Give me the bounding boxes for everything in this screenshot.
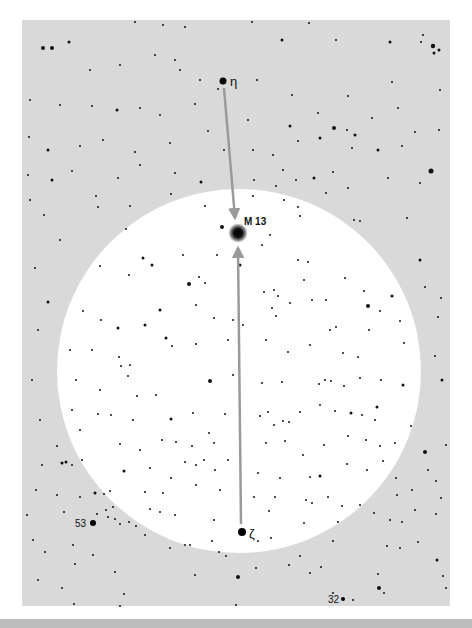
star — [200, 181, 203, 184]
star — [324, 379, 326, 381]
star — [325, 299, 327, 301]
star — [174, 514, 176, 516]
star — [419, 182, 421, 184]
star — [227, 459, 229, 461]
star — [265, 442, 267, 444]
star — [267, 411, 269, 413]
star — [303, 279, 305, 281]
star — [389, 41, 392, 44]
star — [297, 206, 299, 208]
star — [389, 519, 391, 521]
star — [31, 379, 33, 381]
star — [144, 491, 146, 493]
star — [194, 574, 196, 576]
star — [223, 149, 225, 151]
star — [91, 105, 93, 107]
star — [195, 343, 197, 345]
star — [69, 349, 71, 351]
star — [395, 477, 397, 479]
star — [377, 573, 379, 575]
star — [422, 34, 424, 36]
star — [440, 497, 442, 499]
star — [377, 586, 381, 590]
star — [73, 603, 75, 605]
star — [123, 593, 125, 595]
star — [309, 344, 311, 346]
star — [332, 126, 336, 130]
star — [135, 525, 137, 527]
star — [438, 129, 440, 131]
star — [342, 352, 344, 354]
star — [37, 329, 39, 331]
star — [291, 94, 293, 96]
star — [325, 192, 327, 194]
star-chart: η M 13 ζ 53 32 — [0, 0, 472, 628]
star — [169, 142, 171, 144]
star — [341, 505, 343, 507]
star — [169, 547, 171, 549]
star — [134, 151, 136, 153]
star — [256, 79, 258, 81]
star — [123, 470, 126, 473]
star — [26, 514, 28, 516]
star — [365, 439, 367, 441]
star — [129, 205, 131, 207]
star — [117, 327, 120, 330]
star — [114, 518, 116, 520]
star — [182, 254, 184, 256]
star — [273, 289, 275, 291]
star — [334, 410, 336, 412]
star — [59, 104, 61, 106]
star — [379, 310, 381, 312]
star — [56, 445, 58, 447]
star — [29, 99, 31, 101]
star — [72, 544, 74, 546]
star — [102, 139, 104, 141]
star — [431, 44, 435, 48]
star — [423, 450, 427, 454]
star — [95, 195, 97, 197]
star — [261, 244, 263, 246]
star — [368, 329, 370, 331]
star — [195, 304, 197, 306]
star — [440, 297, 442, 299]
star — [417, 541, 419, 543]
star — [427, 469, 429, 471]
star — [330, 380, 332, 382]
star — [213, 317, 215, 319]
star — [97, 413, 99, 415]
star — [59, 239, 61, 241]
star — [144, 534, 146, 536]
star — [214, 469, 216, 471]
star — [303, 522, 305, 524]
star — [351, 147, 353, 149]
star — [320, 566, 322, 568]
star — [251, 21, 253, 23]
star32-marker — [341, 597, 345, 601]
star — [171, 345, 173, 347]
star — [109, 490, 111, 492]
star — [184, 544, 186, 546]
star — [144, 324, 147, 327]
star — [311, 502, 313, 504]
star — [107, 516, 109, 518]
star — [289, 125, 292, 128]
star — [204, 205, 206, 207]
star — [401, 145, 403, 147]
star — [189, 544, 191, 546]
star — [265, 339, 267, 341]
zeta-marker — [238, 528, 246, 536]
star — [35, 489, 37, 491]
star — [295, 179, 297, 181]
star — [282, 420, 284, 422]
star — [37, 579, 39, 581]
star — [373, 512, 375, 514]
star — [199, 79, 201, 81]
star — [335, 39, 337, 41]
star — [97, 206, 99, 208]
star — [410, 425, 412, 427]
star — [219, 489, 221, 491]
star — [282, 169, 284, 171]
star — [347, 95, 349, 97]
star — [41, 46, 45, 50]
